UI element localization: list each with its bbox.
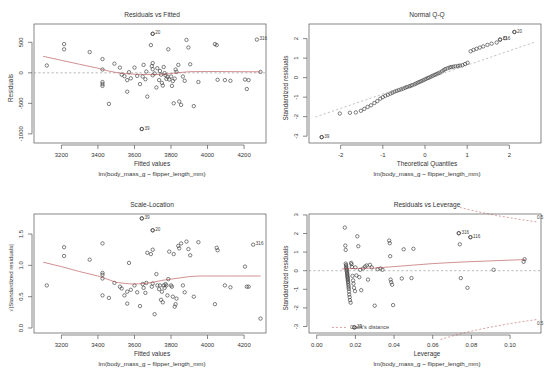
model-caption: lm(body_mass_g ~ flipper_length_mm) bbox=[373, 170, 480, 177]
svg-text:0.06: 0.06 bbox=[427, 342, 439, 348]
y-axis-label: Standardized residuals bbox=[282, 55, 289, 120]
data-points: 39316116 bbox=[343, 226, 526, 329]
svg-text:3: 3 bbox=[293, 213, 299, 217]
svg-text:316: 316 bbox=[256, 241, 264, 246]
svg-text:-1000: -1000 bbox=[18, 126, 24, 142]
svg-text:500: 500 bbox=[18, 37, 24, 48]
axes: -2-1012-3-2-1012 bbox=[293, 24, 541, 158]
svg-text:-1: -1 bbox=[293, 94, 299, 100]
svg-text:0: 0 bbox=[18, 70, 24, 74]
model-caption: lm(body_mass_g ~ flipper_length_mm) bbox=[98, 360, 205, 367]
svg-text:0: 0 bbox=[293, 75, 299, 79]
svg-text:4200: 4200 bbox=[237, 342, 251, 348]
svg-text:3200: 3200 bbox=[55, 342, 69, 348]
x-axis-label: Fitted values bbox=[134, 350, 170, 357]
axes: 0.000.020.040.060.080.10-3-2-10123 bbox=[293, 213, 541, 348]
panel-residuals-vs-fitted: Residuals vs Fitted 32003400360038004000… bbox=[0, 0, 275, 189]
data-points: 3920316 bbox=[320, 29, 523, 139]
plot-title: Scale-Location bbox=[130, 201, 174, 208]
svg-text:3800: 3800 bbox=[164, 152, 178, 158]
svg-text:0.04: 0.04 bbox=[388, 342, 400, 348]
model-caption: lm(body_mass_g ~ flipper_length_mm) bbox=[98, 170, 205, 177]
data-points: 3920316 bbox=[45, 215, 264, 320]
svg-text:3800: 3800 bbox=[164, 342, 178, 348]
panel-residuals-vs-leverage: Residuals vs Leverage 0.000.020.040.060.… bbox=[275, 190, 550, 379]
y-axis-label: √|Standardized residuals| bbox=[8, 244, 14, 312]
plot-decorations: 0.50.5Cook's distance bbox=[309, 207, 544, 339]
svg-text:0.10: 0.10 bbox=[504, 342, 516, 348]
plot-decorations bbox=[315, 42, 534, 117]
svg-text:3600: 3600 bbox=[128, 152, 142, 158]
svg-text:2: 2 bbox=[293, 36, 299, 40]
panel-scale-location: Scale-Location 3200340036003800400042000… bbox=[0, 190, 275, 379]
svg-text:-3: -3 bbox=[293, 323, 299, 329]
svg-text:-2: -2 bbox=[293, 113, 299, 119]
svg-text:3600: 3600 bbox=[128, 342, 142, 348]
svg-text:-3: -3 bbox=[293, 133, 299, 139]
svg-text:0.00: 0.00 bbox=[311, 342, 323, 348]
x-axis-label: Leverage bbox=[414, 350, 441, 358]
svg-text:20: 20 bbox=[517, 29, 523, 34]
svg-text:0.5: 0.5 bbox=[18, 292, 24, 301]
diagnostic-plot-grid: Residuals vs Fitted 32003400360038004000… bbox=[0, 0, 550, 379]
svg-text:0.08: 0.08 bbox=[466, 342, 478, 348]
plot-decorations bbox=[43, 262, 260, 284]
svg-text:3400: 3400 bbox=[91, 342, 105, 348]
svg-text:39: 39 bbox=[144, 215, 150, 220]
svg-text:1: 1 bbox=[293, 56, 299, 60]
svg-text:4000: 4000 bbox=[201, 342, 215, 348]
svg-text:-500: -500 bbox=[18, 97, 24, 110]
svg-text:1: 1 bbox=[293, 250, 299, 254]
svg-text:0.0: 0.0 bbox=[18, 323, 24, 332]
svg-text:3400: 3400 bbox=[91, 152, 105, 158]
svg-text:0.5: 0.5 bbox=[537, 215, 544, 220]
plot-title: Residuals vs Fitted bbox=[124, 11, 180, 18]
svg-text:-2: -2 bbox=[338, 152, 344, 158]
model-caption: lm(body_mass_g ~ flipper_length_mm) bbox=[373, 360, 480, 367]
svg-text:-1: -1 bbox=[380, 152, 386, 158]
data-points: 2031639 bbox=[45, 30, 268, 130]
x-axis-label: Theoretical Quantiles bbox=[397, 160, 457, 168]
svg-text:20: 20 bbox=[155, 227, 161, 232]
svg-text:2: 2 bbox=[293, 231, 299, 235]
svg-text:0: 0 bbox=[293, 268, 299, 272]
svg-text:Cook's distance: Cook's distance bbox=[350, 324, 389, 330]
svg-text:20: 20 bbox=[155, 30, 161, 35]
svg-text:1: 1 bbox=[466, 152, 470, 158]
x-axis-label: Fitted values bbox=[134, 160, 170, 167]
svg-text:0: 0 bbox=[423, 152, 427, 158]
plot-title: Normal Q-Q bbox=[409, 11, 445, 19]
y-axis-label: Residuals bbox=[7, 74, 14, 102]
svg-text:4000: 4000 bbox=[201, 152, 215, 158]
svg-text:3200: 3200 bbox=[55, 152, 69, 158]
svg-text:39: 39 bbox=[144, 126, 150, 131]
svg-text:4200: 4200 bbox=[237, 152, 251, 158]
axes: 320034003600380040004200-1000-5000500 bbox=[18, 24, 266, 158]
svg-text:0.5: 0.5 bbox=[537, 321, 544, 326]
svg-text:116: 116 bbox=[473, 234, 481, 239]
svg-text:0.02: 0.02 bbox=[350, 342, 362, 348]
svg-text:316: 316 bbox=[503, 36, 511, 41]
svg-text:39: 39 bbox=[324, 134, 330, 139]
y-axis-label: Standardized residuals bbox=[282, 245, 289, 310]
plot-title: Residuals vs Leverage bbox=[394, 201, 461, 209]
panel-normal-qq: Normal Q-Q -2-1012-3-2-1012 3920316 Theo… bbox=[275, 0, 550, 189]
svg-text:2: 2 bbox=[508, 152, 512, 158]
svg-text:1.0: 1.0 bbox=[18, 261, 24, 270]
svg-text:316: 316 bbox=[260, 36, 268, 41]
svg-text:1.5: 1.5 bbox=[18, 229, 24, 238]
svg-text:316: 316 bbox=[461, 230, 469, 235]
axes: 3200340036003800400042000.00.51.01.5 bbox=[18, 214, 266, 348]
svg-text:-1: -1 bbox=[293, 286, 299, 292]
svg-text:-2: -2 bbox=[293, 305, 299, 311]
